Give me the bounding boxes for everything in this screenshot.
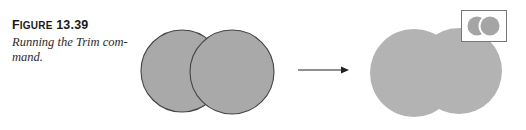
inset-right-circle	[481, 17, 500, 36]
before-circles	[141, 30, 274, 114]
arrow-right-icon	[298, 67, 349, 74]
trim-tool-icon	[462, 11, 507, 42]
trim-diagram	[0, 0, 526, 130]
right-circle	[190, 30, 274, 114]
